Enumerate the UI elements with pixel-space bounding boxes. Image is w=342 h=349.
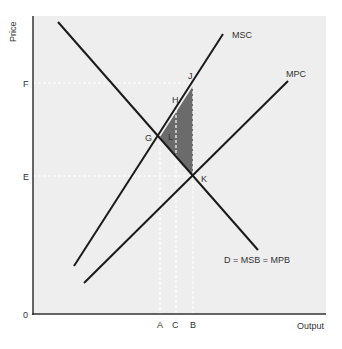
externality-diagram: Price Output 0 F E A C B MSC MPC D = MSB… <box>0 0 342 349</box>
x-tick-C: C <box>172 320 179 330</box>
x-tick-A: A <box>157 320 163 330</box>
point-H: H <box>172 95 179 105</box>
plot-area <box>33 16 326 314</box>
point-J: J <box>188 71 193 81</box>
y-tick-E: E <box>23 172 29 182</box>
y-tick-F: F <box>23 79 29 89</box>
x-axis-label: Output <box>297 321 325 331</box>
point-G: G <box>145 133 152 143</box>
origin-label: 0 <box>23 310 28 320</box>
y-axis-label: Price <box>8 21 18 42</box>
msc-label: MSC <box>232 30 253 40</box>
demand-label: D = MSB = MPB <box>224 255 290 265</box>
point-K: K <box>201 174 207 184</box>
mpc-label: MPC <box>286 69 307 79</box>
x-tick-B: B <box>190 320 196 330</box>
point-L: L <box>168 132 173 142</box>
